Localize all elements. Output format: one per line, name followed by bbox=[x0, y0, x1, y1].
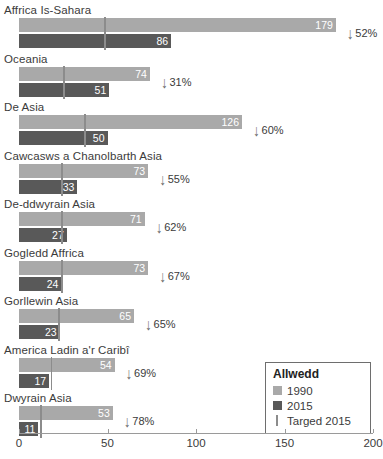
chart-row: Cawcasws a Chanolbarth Asia7333↓55% bbox=[0, 150, 376, 199]
axis-tick-label: 200 bbox=[363, 437, 382, 449]
change-annotation: ↓69% bbox=[126, 367, 157, 379]
arrow-down-icon: ↓ bbox=[253, 124, 260, 138]
bar-1990: 179 bbox=[19, 18, 336, 32]
chart-row: Gorllewin Asia6523↓65% bbox=[0, 295, 376, 344]
row-category-label: Gorllewin Asia bbox=[4, 295, 78, 308]
bar-value-2015: 86 bbox=[157, 36, 169, 47]
bar-value-2015: 23 bbox=[45, 327, 57, 338]
bar-1990: 53 bbox=[19, 406, 113, 420]
bar-value-1990: 65 bbox=[119, 311, 131, 322]
legend-swatch-2015-icon bbox=[273, 401, 282, 410]
x-axis-line bbox=[19, 433, 373, 434]
row-category-label: Dwyrain Asia bbox=[4, 392, 72, 405]
bar-value-2015: 17 bbox=[34, 375, 46, 386]
row-bars: 17986↓52% bbox=[0, 18, 376, 51]
change-annotation: ↓31% bbox=[161, 76, 192, 88]
row-category-label: Cawcasws a Chanolbarth Asia bbox=[4, 150, 162, 163]
axis-tick-label: 150 bbox=[275, 437, 294, 449]
row-category-label: Affrica Is-Sahara bbox=[4, 4, 91, 17]
bar-value-1990: 73 bbox=[134, 262, 146, 273]
legend-swatch-target-icon bbox=[273, 415, 282, 426]
change-percent-label: 55% bbox=[168, 173, 190, 185]
arrow-down-icon: ↓ bbox=[159, 269, 166, 283]
bar-1990: 71 bbox=[19, 212, 145, 226]
change-annotation: ↓55% bbox=[159, 173, 190, 185]
row-bars: 7333↓55% bbox=[0, 164, 376, 197]
arrow-down-icon: ↓ bbox=[156, 221, 163, 235]
x-axis: 050100150200 bbox=[0, 433, 376, 459]
chart-row: De-ddwyrain Asia7127↓62% bbox=[0, 198, 376, 247]
target-marker-2015 bbox=[61, 260, 63, 293]
change-percent-label: 62% bbox=[164, 221, 186, 233]
change-annotation: ↓52% bbox=[347, 27, 378, 39]
bar-2015: 86 bbox=[19, 34, 171, 48]
legend-label-1990: 1990 bbox=[287, 385, 313, 397]
arrow-down-icon: ↓ bbox=[347, 27, 354, 41]
bar-value-2015: 51 bbox=[95, 84, 107, 95]
bar-2015: 50 bbox=[19, 131, 108, 145]
bar-2015: 33 bbox=[19, 180, 77, 194]
legend-label-2015: 2015 bbox=[287, 400, 313, 412]
change-percent-label: 65% bbox=[154, 318, 176, 330]
row-bars: 7324↓67% bbox=[0, 261, 376, 294]
arrow-down-icon: ↓ bbox=[159, 172, 166, 186]
axis-tick-label: 50 bbox=[101, 437, 114, 449]
change-percent-label: 69% bbox=[134, 367, 156, 379]
bar-1990: 54 bbox=[19, 358, 115, 372]
legend-item-2015: 2015 bbox=[273, 398, 364, 413]
change-percent-label: 31% bbox=[169, 76, 191, 88]
change-percent-label: 60% bbox=[262, 124, 284, 136]
row-category-label: America Ladin a'r Caribî bbox=[4, 344, 129, 357]
legend-swatch-1990-icon bbox=[273, 386, 282, 395]
bar-value-2015: 50 bbox=[93, 133, 105, 144]
change-annotation: ↓62% bbox=[156, 221, 187, 233]
axis-tick-label: 0 bbox=[16, 437, 22, 449]
change-annotation: ↓67% bbox=[159, 270, 190, 282]
legend-title: Allwedd bbox=[273, 367, 364, 382]
bar-value-2015: 33 bbox=[63, 181, 75, 192]
bar-value-1990: 126 bbox=[221, 117, 239, 128]
target-marker-2015 bbox=[104, 17, 106, 50]
change-annotation: ↓60% bbox=[253, 124, 284, 136]
bar-1990: 74 bbox=[19, 67, 150, 81]
row-category-label: Gogledd Affrica bbox=[4, 247, 84, 260]
change-percent-label: 67% bbox=[168, 270, 190, 282]
arrow-down-icon: ↓ bbox=[124, 415, 131, 429]
target-marker-2015 bbox=[84, 114, 86, 147]
bar-2015: 23 bbox=[19, 325, 60, 339]
change-annotation: ↓78% bbox=[124, 415, 155, 427]
bar-2015: 24 bbox=[19, 277, 61, 291]
bar-value-1990: 53 bbox=[98, 408, 110, 419]
bar-value-1990: 73 bbox=[134, 165, 146, 176]
target-marker-2015 bbox=[51, 357, 53, 390]
arrow-down-icon: ↓ bbox=[161, 75, 168, 89]
bar-2015: 17 bbox=[19, 374, 49, 388]
chart-row: De Asia12650↓60% bbox=[0, 101, 376, 150]
arrow-down-icon: ↓ bbox=[126, 366, 133, 380]
arrow-down-icon: ↓ bbox=[145, 318, 152, 332]
row-bars: 12650↓60% bbox=[0, 115, 376, 148]
row-bars: 7451↓31% bbox=[0, 67, 376, 100]
legend-label-target: Targed 2015 bbox=[287, 415, 351, 427]
row-category-label: Oceania bbox=[4, 53, 48, 66]
bar-value-1990: 179 bbox=[315, 20, 333, 31]
bar-1990: 65 bbox=[19, 309, 134, 323]
axis-tick-mark bbox=[108, 429, 109, 433]
change-percent-label: 52% bbox=[355, 27, 377, 39]
axis-tick-label: 100 bbox=[186, 437, 205, 449]
bar-1990: 126 bbox=[19, 115, 242, 129]
axis-tick-mark bbox=[285, 429, 286, 433]
chart-row: Gogledd Affrica7324↓67% bbox=[0, 247, 376, 296]
bar-value-1990: 74 bbox=[135, 68, 147, 79]
bar-1990: 73 bbox=[19, 261, 148, 275]
bar-value-1990: 71 bbox=[130, 214, 142, 225]
bar-value-1990: 54 bbox=[100, 359, 112, 370]
row-bars: 6523↓65% bbox=[0, 309, 376, 342]
chart-row: Affrica Is-Sahara17986↓52% bbox=[0, 4, 376, 53]
target-marker-2015 bbox=[63, 66, 65, 99]
row-category-label: De Asia bbox=[4, 101, 44, 114]
change-annotation: ↓65% bbox=[145, 318, 176, 330]
axis-tick-mark bbox=[19, 429, 20, 433]
bar-2015: 27 bbox=[19, 228, 67, 242]
